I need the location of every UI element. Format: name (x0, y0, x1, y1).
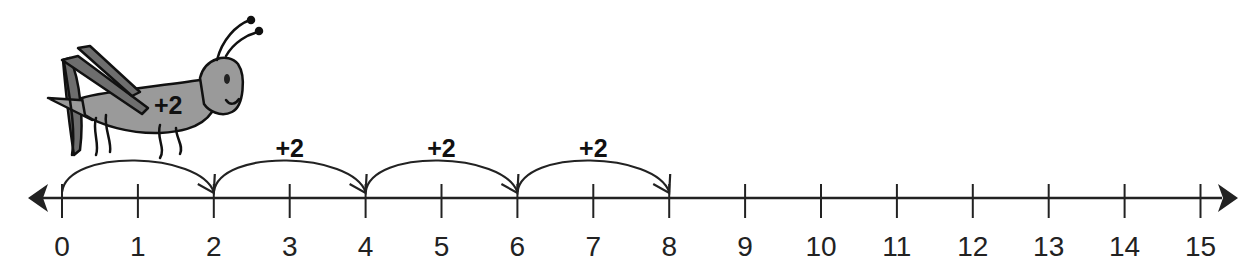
tick-label: 13 (1033, 231, 1064, 262)
grasshopper-icon (48, 17, 262, 158)
tick-label: 8 (661, 231, 677, 262)
tick-label: 10 (805, 231, 836, 262)
tick-label: 2 (206, 231, 222, 262)
tick-label: 5 (434, 231, 450, 262)
tick-label: 0 (54, 231, 70, 262)
tick-label: 15 (1185, 231, 1216, 262)
tick-label: 14 (1109, 231, 1140, 262)
tick-label: 3 (282, 231, 298, 262)
tick-marks (62, 184, 1201, 218)
number-line-diagram: 0123456789101112131415 +2+2+2 +2 (0, 0, 1256, 275)
jump-label: +2 (427, 134, 456, 162)
jump-label: +2 (275, 134, 304, 162)
tick-label: 4 (358, 231, 374, 262)
tick-label: 11 (882, 231, 911, 262)
jump-arcs: +2+2+2 (62, 134, 670, 193)
tick-label: 9 (737, 231, 753, 262)
tick-label: 1 (130, 231, 146, 262)
jump-label: +2 (579, 134, 608, 162)
tick-labels: 0123456789101112131415 (54, 231, 1216, 262)
tick-label: 7 (586, 231, 602, 262)
tick-label: 6 (510, 231, 526, 262)
tick-label: 12 (957, 231, 988, 262)
grasshopper-label: +2 (154, 91, 183, 119)
